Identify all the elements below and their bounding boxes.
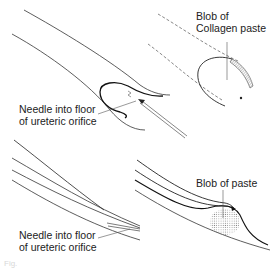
ureter-wall-upper: [24, 10, 170, 95]
label-blob-paste: Blob of paste: [196, 177, 257, 189]
panel-bottom-right: [135, 160, 270, 250]
wall-line-2: [12, 158, 140, 226]
wall-line-1: [14, 140, 104, 210]
label-collagen-blob: Blob of Collagen paste: [196, 10, 266, 34]
needle-tip-mark: [128, 91, 131, 97]
dot-mark: [240, 97, 242, 99]
label-collagen-line-2: Collagen paste: [196, 22, 266, 34]
paste-blob-stippled: [210, 209, 240, 235]
figure-caption: Fig.: [4, 259, 17, 268]
dashed-wall-lower: [148, 44, 222, 100]
label-blob-paste-line-1: Blob of paste: [196, 177, 257, 189]
needle-arrowhead-icon: [138, 99, 145, 104]
floor-line: [135, 190, 270, 250]
label-needle-top: Needle into floor of ureteric orifice: [19, 103, 97, 127]
leader-line-needle-bottom: [98, 229, 130, 238]
label-needle-bottom-line-1: Needle into floor: [19, 229, 97, 241]
needle-shaft-bottom-b: [108, 226, 140, 231]
orifice-raised-wall: [135, 180, 268, 245]
panel-bottom-left: [12, 140, 140, 240]
label-needle-bottom-line-2: of ureteric orifice: [19, 241, 97, 253]
label-needle-bottom: Needle into floor of ureteric orifice: [19, 229, 97, 253]
label-needle-top-line-2: of ureteric orifice: [19, 115, 97, 127]
label-needle-top-line-1: Needle into floor: [19, 103, 97, 115]
needle-shaft-b: [140, 103, 185, 138]
label-collagen-line-1: Blob of: [196, 10, 266, 22]
collagen-blob-hatched: [230, 59, 253, 88]
ureteric-orifice: [100, 83, 163, 118]
wall-line-3: [12, 170, 140, 228]
needle-shaft-a: [142, 101, 187, 136]
